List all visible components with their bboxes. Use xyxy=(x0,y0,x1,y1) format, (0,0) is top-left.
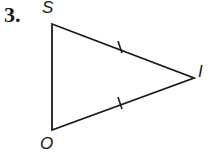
vertex-label-s: S xyxy=(42,0,53,18)
tick-mark-side-SI xyxy=(118,41,122,53)
vertex-label-i: I xyxy=(198,62,203,82)
vertex-label-o: O xyxy=(40,134,53,154)
triangle-SIO xyxy=(52,24,194,130)
isosceles-triangle-diagram xyxy=(0,0,214,154)
tick-mark-side-OI xyxy=(118,97,122,109)
